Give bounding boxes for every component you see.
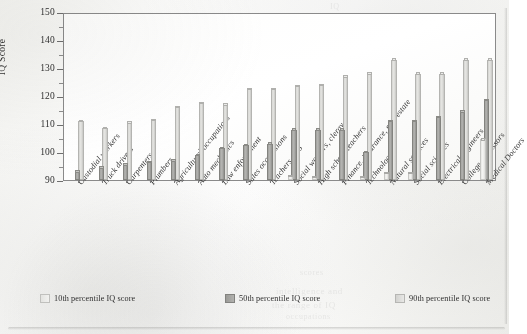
bar-top-cap: [103, 127, 108, 129]
bar-top-cap: [268, 142, 273, 144]
bar-p50: [267, 144, 272, 180]
bar-top-cap: [123, 163, 128, 165]
bar-top-cap: [440, 72, 445, 74]
bar-top-cap: [364, 151, 369, 153]
bar-p50: [315, 130, 320, 180]
bar-top-cap: [244, 144, 249, 146]
bar-top-cap: [196, 154, 201, 156]
bar-p50: [339, 130, 344, 180]
bar-p10: [360, 177, 365, 180]
y-axis-tick-label: 100: [40, 147, 55, 157]
bar-top-cap: [316, 128, 321, 130]
bar-top-cap: [99, 166, 104, 168]
page-edge-right: [504, 8, 507, 324]
bar-p50: [147, 162, 152, 180]
bar-top-cap: [312, 176, 317, 178]
x-axis-tick-mark: [270, 180, 271, 183]
bars-layer: [64, 14, 495, 180]
bar-top-cap: [343, 75, 348, 77]
y-axis-tick-label: 140: [40, 35, 55, 45]
legend-item: 50th percentile IQ score: [225, 294, 320, 303]
x-axis-tick-mark: [366, 180, 367, 183]
page-showthrough-d: occupations: [286, 312, 331, 321]
legend-label: 10th percentile IQ score: [54, 294, 135, 303]
bar-top-cap: [171, 159, 176, 161]
y-axis-tick-label: 90: [45, 175, 55, 185]
bar-p50: [243, 145, 248, 180]
bar-top-cap: [388, 120, 393, 122]
bar-top-cap: [319, 84, 324, 86]
legend-swatch-icon: [225, 294, 235, 303]
y-axis-title: IQ Score: [0, 39, 7, 75]
legend-item: 90th percentile IQ score: [395, 294, 490, 303]
x-axis-tick-mark: [222, 180, 223, 183]
bar-top-cap: [220, 147, 225, 149]
bar-top-cap: [408, 172, 413, 174]
bar-top-cap: [464, 58, 469, 60]
bar-top-cap: [175, 106, 180, 108]
y-axis-tick-label: 150: [40, 7, 55, 17]
x-axis-tick-mark: [102, 180, 103, 183]
bar-group: [480, 14, 493, 180]
bar-p50: [195, 155, 200, 180]
legend-swatch-icon: [395, 294, 405, 303]
bar-top-cap: [151, 119, 156, 121]
x-axis-tick-mark: [198, 180, 199, 183]
bar-top-cap: [340, 128, 345, 130]
x-axis-tick-mark: [318, 180, 319, 183]
bar-top-cap: [436, 116, 441, 118]
bar-p50: [219, 148, 224, 180]
y-axis-tick-label: 130: [40, 63, 55, 73]
y-axis: 90100110120130140150: [33, 13, 63, 181]
bar-top-cap: [460, 110, 465, 112]
bar-top-cap: [271, 88, 276, 90]
x-axis-tick-mark: [342, 180, 343, 183]
bar-top-cap: [488, 58, 493, 60]
bar-p50: [171, 160, 176, 180]
legend-item: 10th percentile IQ score: [40, 294, 135, 303]
x-axis-labels: Custodial workersTruck driversCarpenters…: [63, 181, 496, 281]
y-axis-tick-label: 120: [40, 91, 55, 101]
bar-p10: [384, 173, 389, 180]
bar-top-cap: [384, 172, 389, 174]
x-axis-tick-mark: [150, 180, 151, 183]
bar-p50: [99, 167, 104, 180]
bar-top-cap: [147, 161, 152, 163]
x-axis-tick-mark: [438, 180, 439, 183]
page-showthrough-a: IQ: [330, 2, 340, 11]
bar-top-cap: [223, 103, 228, 105]
bar-group: [71, 14, 84, 180]
legend-label: 50th percentile IQ score: [239, 294, 320, 303]
y-axis-tick-label: 110: [41, 119, 56, 129]
bar-p50: [123, 165, 128, 180]
bar-top-cap: [247, 88, 252, 90]
bar-top-cap: [481, 138, 486, 140]
bar-top-cap: [392, 58, 397, 60]
bar-p50: [291, 130, 296, 180]
x-axis-tick-mark: [294, 180, 295, 183]
bar-top-cap: [127, 121, 132, 123]
x-axis-tick-mark: [486, 180, 487, 183]
bar-top-cap: [199, 102, 204, 104]
bar-top-cap: [367, 72, 372, 74]
bar-p10: [312, 177, 317, 180]
bar-p10: [408, 173, 413, 180]
x-axis-tick-mark: [126, 180, 127, 183]
x-axis-tick-mark: [414, 180, 415, 183]
x-axis-tick-mark: [174, 180, 175, 183]
bar-top-cap: [484, 99, 489, 101]
x-axis-tick-mark: [78, 180, 79, 183]
bar-p50: [436, 117, 441, 180]
x-axis-tick-mark: [246, 180, 247, 183]
bar-top-cap: [79, 120, 84, 122]
bar-top-cap: [288, 175, 293, 177]
page-edge-bottom: [8, 327, 505, 330]
bar-top-cap: [75, 170, 80, 172]
bar-top-cap: [292, 128, 297, 130]
legend-swatch-icon: [40, 294, 50, 303]
bar-p50: [75, 172, 80, 180]
bar-top-cap: [360, 176, 365, 178]
bar-p50: [460, 111, 465, 180]
bar-p10: [288, 176, 293, 180]
